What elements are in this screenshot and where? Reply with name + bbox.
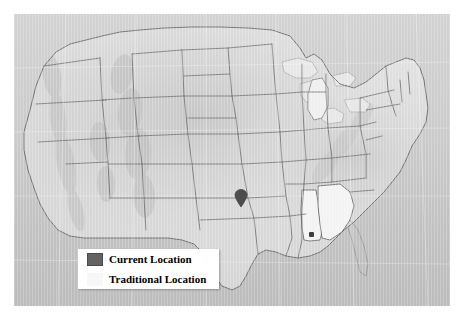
legend-label-current-location: Current Location — [109, 254, 192, 265]
legend-label-traditional-location: Traditional Location — [109, 274, 206, 285]
map-figure: Current Location Traditional Location — [0, 0, 464, 323]
legend-item-current-location: Current Location — [78, 249, 219, 269]
map-legend: Current Location Traditional Location — [78, 249, 219, 289]
legend-swatch-current-location — [87, 253, 103, 266]
legend-swatch-traditional-location — [87, 273, 103, 286]
legend-item-traditional-location: Traditional Location — [78, 269, 219, 289]
